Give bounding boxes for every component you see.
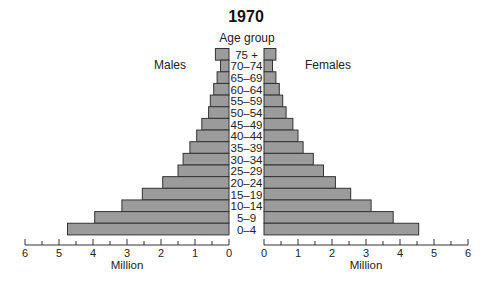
female-bar (264, 95, 283, 107)
axis-tick-label: 4 (397, 247, 403, 259)
male-bar (202, 118, 229, 130)
male-bar (183, 153, 229, 165)
axis-tick-label: 6 (22, 247, 28, 259)
female-bar (264, 223, 419, 235)
axis-tick-label: 0 (226, 247, 232, 259)
male-bar (209, 107, 229, 119)
male-bar (190, 142, 229, 154)
axis-unit-label: Million (111, 259, 144, 271)
age-group-label: 30–34 (231, 154, 264, 166)
female-bar (264, 188, 351, 200)
age-group-label: 20–24 (231, 177, 264, 189)
male-bar (163, 177, 229, 189)
male-bar (215, 49, 229, 61)
age-group-label: 25–29 (231, 165, 263, 177)
age-group-label: 45–49 (231, 119, 263, 131)
females-x-axis: 0123456Million (261, 239, 471, 271)
male-bar (221, 60, 230, 72)
female-bar (264, 118, 293, 130)
male-bar (197, 130, 229, 142)
male-bar (210, 95, 229, 107)
axis-tick-label: 1 (295, 247, 301, 259)
female-bar (264, 165, 324, 177)
axis-unit-label: Million (350, 259, 383, 271)
female-bar (264, 142, 303, 154)
population-pyramid-chart: 75 +70–7465–6960–6455–5950–5445–4940–443… (0, 0, 492, 283)
axis-tick-label: 4 (90, 247, 96, 259)
age-group-label: 70–74 (231, 60, 264, 72)
female-bar (264, 177, 335, 189)
female-bar (264, 200, 371, 212)
axis-tick-label: 3 (363, 247, 369, 259)
axis-tick-label: 2 (158, 247, 164, 259)
female-bar (264, 72, 276, 84)
female-bar (264, 130, 298, 142)
age-group-label: 75 + (235, 49, 258, 61)
male-bar (214, 83, 229, 95)
female-bar (264, 49, 276, 61)
age-group-label: 40–44 (231, 130, 264, 142)
axis-tick-label: 3 (124, 247, 130, 259)
male-bar (122, 200, 229, 212)
axis-tick-label: 6 (465, 247, 471, 259)
age-group-label: 35–39 (231, 142, 263, 154)
male-bar (68, 223, 230, 235)
female-bar (264, 107, 286, 119)
male-bar (178, 165, 229, 177)
age-group-label: 10–14 (231, 200, 264, 212)
age-group-label: 5–9 (237, 212, 256, 224)
axis-tick-label: 0 (261, 247, 267, 259)
female-bar (264, 153, 313, 165)
males-x-axis: 0123456Million (22, 239, 232, 271)
age-group-label: 0–4 (237, 224, 257, 236)
male-bar (217, 72, 229, 84)
female-bar (264, 212, 393, 224)
age-group-label: 65–69 (231, 72, 263, 84)
axis-tick-label: 5 (431, 247, 437, 259)
age-group-label: 15–19 (231, 189, 263, 201)
female-bar (264, 60, 273, 72)
age-group-label: 50–54 (231, 107, 264, 119)
axis-tick-label: 2 (329, 247, 335, 259)
male-bar (142, 188, 229, 200)
males-bars (68, 49, 230, 235)
age-group-label: 55–59 (231, 95, 263, 107)
age-group-label: 60–64 (231, 84, 264, 96)
axis-tick-label: 5 (56, 247, 62, 259)
male-bar (95, 212, 229, 224)
females-bars (264, 49, 419, 235)
female-bar (264, 83, 279, 95)
age-group-labels: 75 +70–7465–6960–6455–5950–5445–4940–443… (231, 49, 264, 236)
axis-tick-label: 1 (192, 247, 198, 259)
